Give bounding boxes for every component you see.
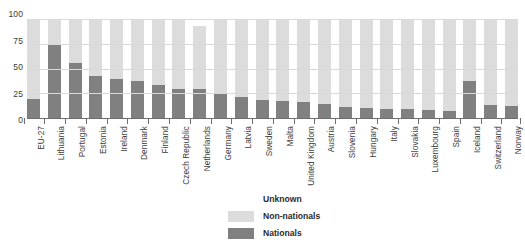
legend-swatch [228,211,254,222]
x-tick [463,118,476,125]
x-axis-label: Czech Republic [183,126,191,185]
x-axis-label-cell: Hungary [360,126,373,184]
x-tick [172,118,185,125]
bar-segment-non-nationals [380,19,393,109]
x-axis-label-cell: Austria [318,126,331,184]
bar-segment-nationals [422,110,435,118]
x-tick [110,118,123,125]
x-axis-label: Hungary [370,126,378,158]
y-tick-label: 0 [18,116,23,125]
bar-segment-non-nationals [422,19,435,110]
x-axis-label: Ireland [121,126,129,152]
bar-segment-non-nationals [152,19,165,85]
bar-segment-nationals [443,111,456,118]
x-axis-label-cell: United Kingdom [297,126,310,184]
x-tick [214,118,227,125]
chart-legend: UnknownNon-nationalsNationals [228,192,428,242]
gridline [27,19,518,20]
y-axis: 0255075100 [0,14,26,120]
bar-segment-non-nationals [69,19,82,63]
x-axis-label-cell: Italy [380,126,393,184]
x-tick [380,118,393,125]
x-axis-label-cell: Czech Republic [172,126,185,184]
x-axis-labels: EU-27LithuaniaPortugalEstoniaIrelandDenm… [27,126,518,184]
x-axis-label: Norway [515,126,523,154]
bar-segment-non-nationals [172,19,185,89]
y-tick-label: 50 [13,63,23,72]
plot-wrapper: 0255075100 EU-27LithuaniaPortugalEstonia… [0,0,525,122]
x-axis-label-cell: Latvia [235,126,248,184]
x-axis-label-cell: Slovenia [339,126,352,184]
x-tick [69,118,82,125]
bar-segment-nationals [235,97,248,118]
bar-segment-nationals [484,105,497,118]
x-axis-label-cell: Sweden [256,126,269,184]
bar-segment-non-nationals [401,19,414,109]
x-tick [89,118,102,125]
x-axis-label-cell: Slovakia [401,126,414,184]
bar-segment-nationals [89,76,102,118]
bar-segment-nationals [318,104,331,118]
bar-segment-non-nationals [193,26,206,89]
legend-label: Non-nationals [263,212,320,221]
x-axis-label: Malta [287,126,295,147]
x-axis-label-cell: Germany [214,126,227,184]
x-axis-label-cell: Iceland [463,126,476,184]
x-tick [235,118,248,125]
bar-segment-nationals [276,101,289,118]
bar-segment-non-nationals [318,19,331,104]
x-axis-label-cell: EU-27 [27,126,40,184]
bar-segment-non-nationals [484,19,497,105]
x-axis-label: Switzerland [495,126,503,169]
x-axis-label: Luxembourg [432,126,440,173]
bar-segment-non-nationals [48,19,61,44]
x-axis-label: Denmark [141,126,149,160]
bar-segment-nationals [505,106,518,118]
x-axis-label: Lithuania [58,126,66,160]
legend-label: Unknown [263,195,302,204]
legend-swatch [228,194,254,205]
x-tick [443,118,456,125]
legend-item[interactable]: Non-nationals [228,209,428,224]
x-axis-label-cell: Denmark [131,126,144,184]
x-tick [48,118,61,125]
bar-segment-nationals [297,102,310,118]
bar-segment-non-nationals [297,19,310,102]
bar-segment-nationals [214,94,227,118]
x-tick [422,118,435,125]
x-axis-label-cell: Portugal [69,126,82,184]
x-axis-label: Finland [162,126,170,154]
bar-segment-nationals [256,100,269,118]
legend-swatch [228,228,254,239]
plot-area [27,19,518,118]
legend-label: Nationals [263,229,302,238]
x-axis-label: EU-27 [38,126,46,150]
x-tick [505,118,518,125]
x-axis-ticks [27,118,518,126]
bar-segment-non-nationals [463,19,476,81]
bar-segment-nationals [463,81,476,118]
bar-segment-nationals [69,63,82,118]
x-axis-label: United Kingdom [308,126,316,186]
bar-segment-non-nationals [443,19,456,111]
x-axis-label: Slovenia [349,126,357,158]
bar-segment-non-nationals [131,19,144,81]
legend-item[interactable]: Unknown [228,192,428,207]
x-tick [256,118,269,125]
x-axis-label: Spain [453,126,461,147]
bar-segment-non-nationals [256,19,269,100]
x-axis-label-cell: Estonia [89,126,102,184]
x-tick [339,118,352,125]
bar-segment-nationals [380,109,393,118]
y-tick-label: 100 [9,10,23,19]
x-tick [318,118,331,125]
bar-segment-nationals [131,81,144,118]
bar-segment-non-nationals [214,19,227,94]
x-tick [297,118,310,125]
legend-item[interactable]: Nationals [228,226,428,241]
x-axis-label: Estonia [100,126,108,154]
bar-segment-non-nationals [235,19,248,97]
x-axis-label: Netherlands [204,126,212,171]
y-tick-label: 25 [13,89,23,98]
gridline [27,44,518,45]
